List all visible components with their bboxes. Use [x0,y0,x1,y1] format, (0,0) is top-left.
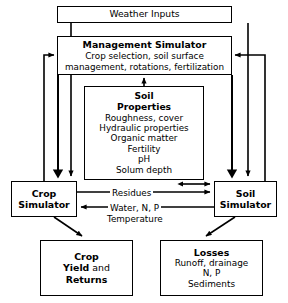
node-crop-yield-and-returns: Crop Yield and Returns [40,240,133,296]
edge-label-residues: Residues [110,188,153,199]
edge-soil-simulator-to-losses [206,217,235,236]
node-soil-simulator: Soil Simulator [214,181,277,217]
soil-properties-item-4: Fertility [127,144,160,154]
management-simulator-title: Management Simulator [83,39,207,50]
losses-item-1: Runoff, drainage [175,258,249,269]
soil-properties-item-6: Solum depth [116,165,172,175]
soil-simulator-line-2: Simulator [220,199,272,210]
node-weather-inputs: Weather Inputs [57,6,232,23]
soil-properties-title-line-2: Properties [117,102,171,113]
node-crop-simulator: Crop Simulator [11,181,77,217]
node-management-simulator: Management Simulator Crop selection, soi… [57,36,232,75]
weather-inputs-label: Weather Inputs [109,9,179,20]
management-simulator-line-1: Crop selection, soil surface [85,51,204,61]
node-losses: Losses Runoff, drainage N, P Sediments [160,240,263,296]
management-simulator-line-2: management, rotations, fertilization [65,62,224,72]
crop-output-line-3: Returns [66,274,108,285]
edge-left-feedback-to-management [44,55,54,184]
soil-properties-item-5: pH [138,154,150,164]
edge-label-water-n-p: Water, N, P [108,203,161,214]
crop-output-and-word: and [89,262,110,273]
losses-item-3: Sediments [188,279,235,290]
edge-crop-simulator-to-crop-output [54,217,82,236]
crop-output-line-1: Crop [74,251,99,262]
simulation-flow-diagram: Weather Inputs Management Simulator Crop… [0,0,288,303]
soil-simulator-line-1: Soil [236,188,256,199]
crop-output-line-2: Yield and [63,262,110,273]
crop-output-yield-word: Yield [63,262,89,273]
node-soil-properties: Soil Properties Roughness, cover Hydraul… [84,86,204,180]
soil-properties-item-1: Roughness, cover [105,113,183,123]
edge-label-temperature: Temperature [105,214,165,225]
edge-right-feedback-to-management [235,55,265,184]
soil-properties-item-3: Organic matter [111,133,178,143]
losses-title: Losses [194,247,230,258]
crop-simulator-line-2: Simulator [18,199,70,210]
losses-item-2: N, P [203,268,221,279]
crop-simulator-line-1: Crop [32,188,57,199]
soil-properties-item-2: Hydraulic properties [99,123,188,133]
